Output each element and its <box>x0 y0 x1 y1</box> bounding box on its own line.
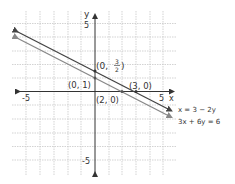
label-point-a-num: 3 <box>115 58 119 65</box>
label-point-a-den: 2 <box>115 66 119 73</box>
label-point-d: (2, 0) <box>96 95 119 105</box>
point-0-1 <box>94 77 97 80</box>
label-point-a-close: ) <box>121 61 125 71</box>
y-min-label: -5 <box>82 157 90 166</box>
axes <box>18 16 172 174</box>
y-axis-label: y <box>84 9 90 19</box>
grid <box>12 11 176 176</box>
x-axis-label: x <box>169 94 174 103</box>
x-max-label: 5 <box>159 94 164 103</box>
y-max-label: 5 <box>84 21 89 30</box>
legend-eq1: x = 3 − 2y <box>178 106 216 114</box>
line-x-eq-3-minus-2y <box>16 31 170 110</box>
label-point-a: (0, <box>96 61 108 71</box>
legend-eq2: 3x + 6y = 6 <box>178 118 221 126</box>
x-min-label: -5 <box>22 94 30 103</box>
point-2-0 <box>121 90 124 93</box>
label-point-c: (3, 0) <box>129 81 152 91</box>
coordinate-plane: y 5 -5 -5 5 x (0, 3 2 ) (0, 1) (3, 0) (2… <box>0 0 235 184</box>
label-point-b: (0, 1) <box>68 80 91 90</box>
